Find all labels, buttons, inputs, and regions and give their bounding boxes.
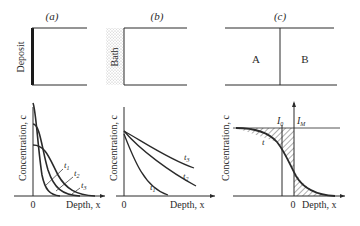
- panel-b-label: (b): [151, 10, 164, 23]
- panel-a-x-arrow-icon: [100, 194, 105, 198]
- deposit-layer: [31, 28, 34, 85]
- panel-a-xlabel: Depth, x: [66, 199, 100, 210]
- panel-c-schematic: (c) A B: [225, 10, 337, 85]
- panel-b-x-arrow-icon: [210, 194, 215, 198]
- deposit-label: Deposit: [15, 41, 26, 72]
- panel-c-y-arrow-icon: [292, 101, 296, 107]
- panel-a-plot: t1 t2 t3 Concentration, c 0 Depth, x: [14, 103, 105, 210]
- panel-b-schematic: (b) Bath: [106, 10, 187, 85]
- panel-c-xlabel: Depth, x: [302, 199, 336, 210]
- panel-a-origin: 0: [31, 199, 36, 210]
- panel-c-ylabel: Concentration, c: [220, 114, 231, 181]
- label-t1: t1: [64, 160, 70, 171]
- panel-b-ylabel: Concentration, c: [108, 114, 119, 181]
- panel-c-plot: t I0 IM Concentration, c 0 Depth, x: [220, 101, 345, 210]
- hatched-area-right: [294, 170, 330, 196]
- label-t3: t3: [81, 180, 87, 191]
- region-b-label: B: [301, 53, 308, 65]
- panel-c-x-arrow-icon: [340, 194, 345, 198]
- panel-b-xlabel: Depth, x: [170, 199, 204, 210]
- panel-a-ylabel: Concentration, c: [17, 114, 28, 181]
- label-b-t1: t1: [150, 182, 156, 193]
- panel-c-curve-label: t: [262, 137, 265, 147]
- panel-c-label: (c): [274, 10, 287, 23]
- label-IM: IM: [296, 115, 306, 127]
- panel-c-origin: 0: [291, 199, 296, 210]
- diffusion-diagram: (a) Deposit (b) Bath (c) A B: [0, 0, 360, 226]
- panel-a-schematic: (a) Deposit: [15, 10, 87, 85]
- label-t2: t2: [74, 168, 80, 179]
- label-I0: I0: [276, 115, 283, 127]
- region-a-label: A: [252, 53, 260, 65]
- label-b-t2: t2: [183, 171, 189, 182]
- panel-a-label: (a): [46, 10, 59, 23]
- panel-a-curve-t1: [33, 103, 60, 196]
- bath-label: Bath: [109, 48, 120, 67]
- panel-b-plot: t1 t2 t3 Concentration, c 0 Depth, x: [108, 107, 215, 210]
- panel-b-origin: 0: [122, 199, 127, 210]
- label-b-t3: t3: [184, 152, 190, 163]
